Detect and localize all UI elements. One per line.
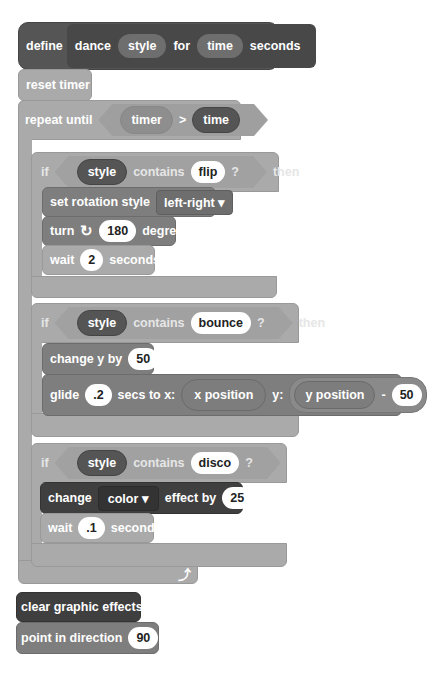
degrees-label: degrees [142, 224, 190, 238]
wait-label: wait [48, 521, 72, 535]
value-input[interactable]: disco [191, 452, 240, 474]
if-bounce-header: if style contains bounce ? then [31, 303, 331, 343]
value-input[interactable]: bounce [191, 312, 251, 334]
turn-block[interactable]: turn ↻ 180 degrees [42, 216, 176, 246]
if-flip-bottom [31, 276, 277, 298]
clear-graphic-effects-block[interactable]: clear graphic effects [16, 592, 141, 622]
dropdown-value: color [108, 492, 139, 506]
if-disco-header: if style contains disco ? [31, 443, 287, 483]
effect-value-input[interactable]: 25 [222, 487, 252, 509]
rotate-clockwise-icon: ↻ [80, 222, 93, 240]
style-param[interactable]: style [77, 310, 128, 336]
contains-label: contains [133, 316, 184, 330]
style-param[interactable]: style [77, 450, 128, 476]
subtract-operator[interactable]: y position - 50 [289, 377, 426, 413]
define-keyword: define [26, 39, 63, 53]
rotation-style-dropdown[interactable]: left-right ▾ [156, 190, 233, 215]
minus-symbol: - [381, 388, 385, 402]
repeat-until-header: repeat until timer > time [18, 100, 274, 140]
dropdown-arrow-icon: ▾ [218, 196, 225, 210]
subtract-value-input[interactable]: 50 [392, 384, 422, 406]
timer-reporter[interactable]: timer [120, 106, 173, 134]
if-label: if [41, 316, 49, 330]
change-y-input[interactable]: 50 [128, 348, 158, 370]
glide-secs-input[interactable]: .2 [85, 384, 111, 406]
y-label: y: [272, 388, 283, 402]
question-mark: ? [257, 316, 265, 330]
if-label: if [41, 165, 49, 179]
point-direction-label: point in direction [21, 631, 122, 645]
glide-label: glide [50, 388, 79, 402]
direction-input[interactable]: 90 [128, 627, 158, 649]
degrees-input[interactable]: 180 [99, 220, 136, 242]
question-mark: ? [231, 165, 239, 179]
if-disco-bottom [31, 543, 287, 567]
wait-block[interactable]: wait 2 seconds [42, 245, 155, 275]
question-mark: ? [245, 456, 253, 470]
greater-than-operator[interactable]: timer > time [98, 104, 268, 136]
style-param[interactable]: style [77, 159, 128, 185]
param-style[interactable]: style [118, 34, 167, 58]
then-label: then [299, 316, 325, 330]
x-position-reporter[interactable]: x position [181, 379, 266, 411]
word-seconds: seconds [250, 39, 301, 53]
glide-block[interactable]: glide .2 secs to x: x position y: y posi… [42, 374, 402, 416]
param-time[interactable]: time [197, 34, 243, 58]
if-flip-header: if style contains flip ? then [31, 152, 305, 192]
turn-label: turn [50, 224, 74, 238]
change-y-block[interactable]: change y by 50 [42, 343, 154, 375]
change-effect-block[interactable]: change color ▾ effect by 25 [40, 482, 243, 514]
operator-symbol: > [179, 113, 186, 127]
point-in-direction-block[interactable]: point in direction 90 [16, 622, 159, 654]
contains-label: contains [133, 456, 184, 470]
seconds-input[interactable]: .1 [78, 517, 104, 539]
set-rotation-label: set rotation style [50, 195, 150, 209]
time-param[interactable]: time [192, 107, 240, 133]
if-flip-side [31, 191, 42, 277]
value-input[interactable]: flip [191, 161, 226, 183]
contains-operator[interactable]: style contains disco ? [55, 447, 281, 479]
change-y-label: change y by [50, 352, 122, 366]
if-bounce-bottom [31, 413, 299, 437]
seconds-input[interactable]: 2 [80, 249, 103, 271]
effect-by-label: effect by [165, 491, 216, 505]
seconds-label: seconds [111, 521, 162, 535]
clear-effects-label: clear graphic effects [21, 600, 143, 614]
secs-to-x-label: secs to x: [118, 388, 176, 402]
dropdown-arrow-icon: ▾ [142, 492, 149, 506]
contains-operator[interactable]: style contains flip ? [55, 156, 267, 188]
repeat-until-label: repeat until [25, 113, 92, 127]
effect-dropdown[interactable]: color ▾ [98, 486, 159, 511]
contains-label: contains [133, 165, 184, 179]
if-label: if [41, 456, 49, 470]
block-name: dance [75, 39, 111, 53]
reset-timer-label: reset timer [26, 78, 90, 92]
wait-label: wait [50, 253, 74, 267]
seconds-label: seconds [109, 253, 160, 267]
y-position-reporter[interactable]: y position [294, 381, 375, 409]
custom-block-prototype: dance style for time seconds [67, 24, 316, 68]
if-bounce-side [31, 342, 42, 414]
set-rotation-style-block[interactable]: set rotation style left-right ▾ [42, 187, 216, 217]
then-label: then [273, 165, 299, 179]
define-block[interactable]: define dance style for time seconds [18, 22, 279, 70]
word-for: for [173, 39, 190, 53]
repeat-until-side [18, 139, 32, 561]
reset-timer-block[interactable]: reset timer [18, 69, 92, 101]
wait-block[interactable]: wait .1 seconds [40, 513, 154, 543]
dropdown-value: left-right [164, 196, 215, 210]
contains-operator[interactable]: style contains bounce ? [55, 307, 293, 339]
change-label: change [48, 491, 92, 505]
